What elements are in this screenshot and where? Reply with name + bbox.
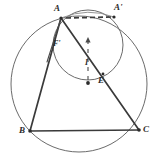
up-arrow-icon xyxy=(85,37,90,43)
point-label-e: E xyxy=(98,76,104,85)
point-label-f-prime: F' xyxy=(53,40,61,48)
point-a-dot xyxy=(59,16,62,19)
point-label-i: I xyxy=(85,59,88,67)
point-b-dot xyxy=(28,129,32,133)
point-label-a-prime: A' xyxy=(114,3,123,12)
point-label-c: C xyxy=(143,125,149,134)
geometry-figure: A A' F' I E B C xyxy=(0,0,167,163)
segment-b-c xyxy=(30,130,139,131)
point-a-prime-dot xyxy=(112,15,115,18)
point-label-b: B xyxy=(19,126,25,135)
segment-a-c xyxy=(61,18,139,130)
point-c-dot xyxy=(137,128,141,132)
geometry-canvas xyxy=(0,0,167,163)
incenter-dot xyxy=(86,81,90,85)
segment-a-b xyxy=(30,18,61,131)
point-label-a: A xyxy=(54,4,60,13)
